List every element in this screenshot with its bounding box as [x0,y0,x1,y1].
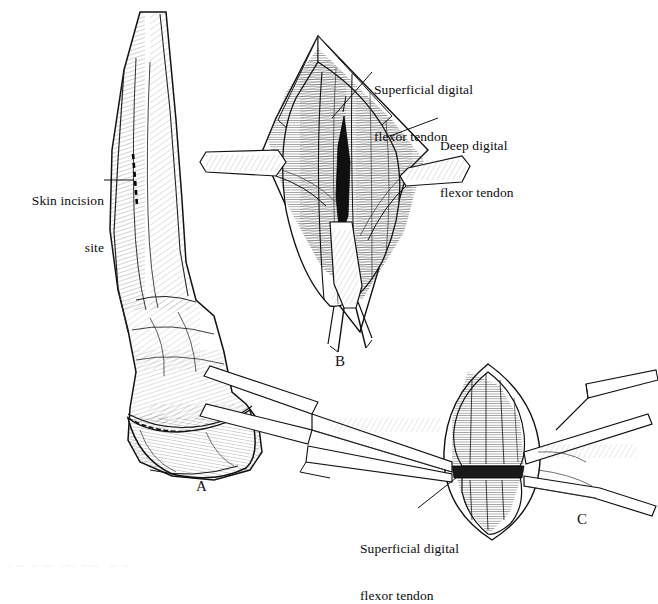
label-sdft-b-line1: Superficial digital [374,82,473,98]
label-skin-incision-site-line2: site [8,240,104,256]
label-skin-incision-site: Skin incision site [8,162,104,286]
label-skin-incision-site-line1: Skin incision [8,193,104,209]
forceps-upper-right [524,370,658,464]
label-sdft-c-line1: Superficial digital [360,541,459,557]
label-superficial-digital-flexor-tendon-c: Superficial digital flexor tendon [360,510,459,604]
label-sdft-c-line2: flexor tendon [360,588,459,604]
panel-letter-a: A [196,478,207,495]
label-ddft-line1: Deep digital [440,138,514,154]
panel-letter-b: B [335,353,345,370]
forceps-lower-right [524,476,656,516]
label-ddft-line2: flexor tendon [440,185,514,201]
clipped-caption-remnant: • ••• •• ••• ••• • •• ••• •• •• [8,561,129,571]
panel-letter-c: C [577,511,587,528]
label-deep-digital-flexor-tendon: Deep digital flexor tendon [440,107,514,231]
